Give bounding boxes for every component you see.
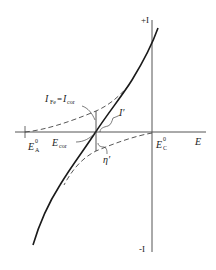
svg-text:I: I (44, 93, 49, 104)
eta-prime-label: η′ (103, 154, 111, 165)
svg-text:Fe: Fe (50, 99, 56, 105)
ea0-label: E 0 A (27, 138, 40, 153)
svg-text:cor: cor (59, 143, 67, 149)
svg-text:E: E (51, 137, 58, 148)
svg-text:A: A (35, 147, 40, 153)
minus-i-label: -I (139, 244, 145, 254)
svg-text:0: 0 (35, 138, 38, 144)
iprime-label: I′ (118, 107, 125, 118)
polarization-diagram: +I -I E E 0 A E 0 C E cor I Fe = I cor I… (0, 0, 216, 270)
svg-text:=: = (57, 94, 62, 104)
ife-icor-label: I Fe = I cor (44, 93, 75, 105)
svg-text:0: 0 (163, 136, 166, 142)
ecor-label: E cor (51, 137, 67, 149)
anodic-partial-curve (25, 84, 130, 132)
svg-text:E: E (27, 141, 34, 152)
svg-text:C: C (163, 145, 167, 151)
icor-leader (82, 106, 95, 120)
ec0-label: E 0 C (155, 136, 167, 151)
iprime-brace (100, 115, 120, 132)
svg-text:E: E (155, 139, 162, 150)
plus-i-label: +I (141, 15, 149, 25)
e-axis-label: E (194, 136, 201, 147)
svg-text:cor: cor (67, 99, 75, 105)
